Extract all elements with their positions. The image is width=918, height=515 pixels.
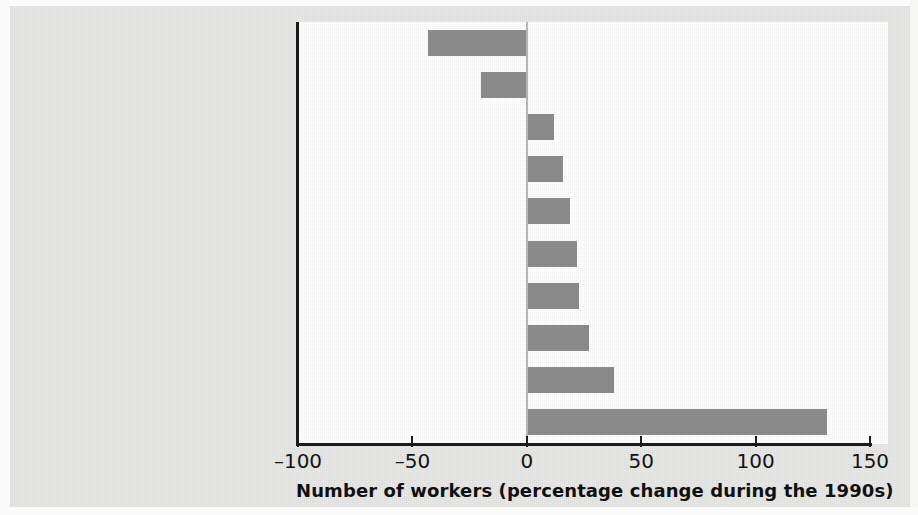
scan-edge-right <box>910 0 918 515</box>
x-tick-label: –100 <box>274 449 322 473</box>
x-tick-mark <box>640 436 642 447</box>
bar <box>527 283 580 309</box>
bar <box>428 30 526 56</box>
x-tick-mark <box>411 436 413 447</box>
chart-figure: Coal miningSteelRetail tradeAdvertisingE… <box>0 0 918 515</box>
scan-edge-top <box>0 0 918 6</box>
bar <box>481 72 527 98</box>
x-axis-title: Number of workers (percentage change dur… <box>296 480 888 501</box>
x-tick-mark <box>297 436 299 447</box>
x-tick-label: 150 <box>851 449 889 473</box>
x-tick-mark <box>755 436 757 447</box>
category-label-column: Coal miningSteelRetail tradeAdvertisingE… <box>0 0 288 515</box>
x-tick-label: –50 <box>395 449 430 473</box>
bar <box>527 409 827 435</box>
x-tick-mark <box>869 436 871 447</box>
y-axis-line <box>296 22 299 444</box>
bar <box>527 325 589 351</box>
scan-edge-left <box>0 0 10 515</box>
x-tick-label: 100 <box>737 449 775 473</box>
bar <box>527 367 614 393</box>
bar <box>527 241 577 267</box>
bar <box>527 114 554 140</box>
scan-edge-bottom <box>0 507 918 515</box>
bar <box>527 156 564 182</box>
zero-reference-line <box>526 22 528 443</box>
x-tick-label: 50 <box>628 449 653 473</box>
x-tick-label: 0 <box>520 449 533 473</box>
bar <box>527 198 570 224</box>
x-tick-mark <box>526 436 528 447</box>
x-axis-line <box>296 443 872 446</box>
